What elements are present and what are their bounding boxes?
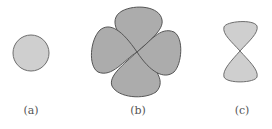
- panel-label-c: (c): [235, 104, 250, 117]
- panel-label-a: (a): [23, 104, 38, 117]
- hourglass-shape: [224, 22, 257, 82]
- circle-shape: [13, 35, 49, 71]
- lobe-lower: [224, 51, 257, 82]
- lobe-upper: [224, 22, 257, 51]
- cloverleaf-shape: [91, 7, 180, 97]
- panel-label-b: (b): [130, 104, 146, 117]
